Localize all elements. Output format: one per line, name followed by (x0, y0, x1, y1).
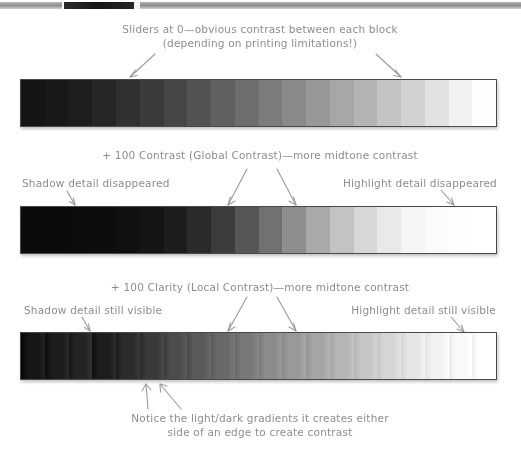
greyscale-strip-sliders-at-zero (20, 79, 497, 127)
panel1-arrow-right (370, 53, 410, 79)
greyscale-block (211, 333, 235, 379)
greyscale-block (140, 333, 164, 379)
greyscale-block (21, 80, 45, 126)
greyscale-block (140, 80, 164, 126)
greyscale-block (306, 333, 330, 379)
greyscale-block (235, 207, 259, 253)
greyscale-block (45, 207, 69, 253)
greyscale-block (45, 333, 69, 379)
panel3-bottom-arrow-left (140, 382, 158, 410)
greyscale-block (306, 207, 330, 253)
artifact-segment-left (0, 2, 62, 9)
greyscale-block (164, 207, 188, 253)
greyscale-block (92, 80, 116, 126)
panel1-arrow-left (122, 53, 162, 79)
greyscale-block (187, 333, 211, 379)
greyscale-block (472, 80, 496, 126)
greyscale-block (187, 207, 211, 253)
greyscale-block (116, 80, 140, 126)
panel3-arrow-midtone-right (274, 296, 304, 333)
panel3-bottom-arrow-right (157, 382, 183, 410)
greyscale-block (92, 207, 116, 253)
greyscale-block (330, 333, 354, 379)
greyscale-block (472, 207, 496, 253)
greyscale-block (21, 207, 45, 253)
panel2-right-label: Highlight detail disappeared (343, 176, 497, 190)
panel3-left-label: Shadow detail still visible (24, 303, 162, 317)
greyscale-block (116, 333, 140, 379)
panel2-arrow-midtone-right (274, 168, 304, 207)
panel2-arrow-midtone-left (222, 168, 252, 207)
greyscale-strip-clarity-local-contrast (20, 332, 497, 380)
greyscale-block (282, 333, 306, 379)
greyscale-block (425, 80, 449, 126)
greyscale-block (235, 80, 259, 126)
panel3-arrow-midtone-left (222, 296, 252, 333)
greyscale-block (449, 333, 473, 379)
greyscale-block (425, 333, 449, 379)
greyscale-block (45, 80, 69, 126)
greyscale-block (377, 333, 401, 379)
greyscale-block (449, 80, 473, 126)
panel3-heading-line1: + 100 Clarity (Local Contrast)—more midt… (85, 280, 435, 294)
greyscale-block (259, 333, 283, 379)
greyscale-block (211, 80, 235, 126)
greyscale-block (187, 80, 211, 126)
greyscale-block (92, 333, 116, 379)
greyscale-block (164, 333, 188, 379)
artifact-segment-dark (64, 2, 134, 9)
panel2-arrow-shadow (63, 190, 83, 207)
greyscale-block (377, 207, 401, 253)
greyscale-block (69, 207, 93, 253)
greyscale-block (401, 207, 425, 253)
greyscale-block (259, 80, 283, 126)
greyscale-block (140, 207, 164, 253)
artifact-segment-right (140, 2, 521, 9)
panel1-heading-line2: (depending on printing limitations!) (110, 36, 410, 50)
greyscale-block (282, 80, 306, 126)
greyscale-block (354, 333, 378, 379)
panel3-bottom-caption-line1: Notice the light/dark gradients it creat… (110, 411, 410, 425)
greyscale-block (235, 333, 259, 379)
greyscale-block (69, 333, 93, 379)
greyscale-block (401, 80, 425, 126)
panel1-heading-line1: Sliders at 0—obvious contrast between ea… (110, 22, 410, 36)
greyscale-block (401, 333, 425, 379)
panel2-heading-line1: + 100 Contrast (Global Contrast)—more mi… (85, 148, 435, 162)
greyscale-block (116, 207, 140, 253)
greyscale-block (330, 80, 354, 126)
greyscale-block (449, 207, 473, 253)
panel3-bottom-caption-line2: side of an edge to create contrast (110, 425, 410, 439)
panel3-arrow-shadow (78, 316, 98, 333)
greyscale-block (21, 333, 45, 379)
greyscale-block (164, 80, 188, 126)
greyscale-block (354, 80, 378, 126)
greyscale-block (425, 207, 449, 253)
cropped-image-edge-artifact (0, 0, 521, 11)
panel3-right-label: Highlight detail still visible (351, 303, 496, 317)
greyscale-block (354, 207, 378, 253)
panel2-left-label: Shadow detail disappeared (22, 176, 170, 190)
greyscale-block (282, 207, 306, 253)
greyscale-block (377, 80, 401, 126)
greyscale-block (330, 207, 354, 253)
panel2-arrow-highlight (438, 189, 460, 207)
greyscale-strip-global-contrast (20, 206, 497, 254)
greyscale-block (472, 333, 496, 379)
greyscale-block (69, 80, 93, 126)
greyscale-block (211, 207, 235, 253)
greyscale-block (259, 207, 283, 253)
greyscale-block (306, 80, 330, 126)
